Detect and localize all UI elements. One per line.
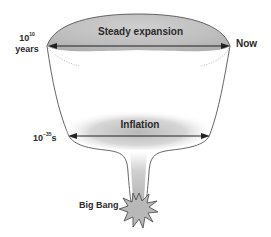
top-time-unit: years bbox=[12, 44, 42, 55]
top-time-value: 1010 bbox=[12, 29, 42, 44]
inflation-shade bbox=[66, 110, 210, 150]
tail-shade bbox=[130, 152, 147, 200]
big-bang-label: Big Bang bbox=[79, 200, 119, 210]
now-label: Now bbox=[236, 38, 257, 49]
steady-expansion-label: Steady expansion bbox=[98, 26, 178, 37]
big-bang-starburst-icon bbox=[119, 193, 158, 228]
top-time-label: 1010 years bbox=[12, 29, 42, 55]
inflation-label: Inflation bbox=[110, 119, 170, 130]
inflation-time-label: 10−35s bbox=[33, 131, 57, 143]
